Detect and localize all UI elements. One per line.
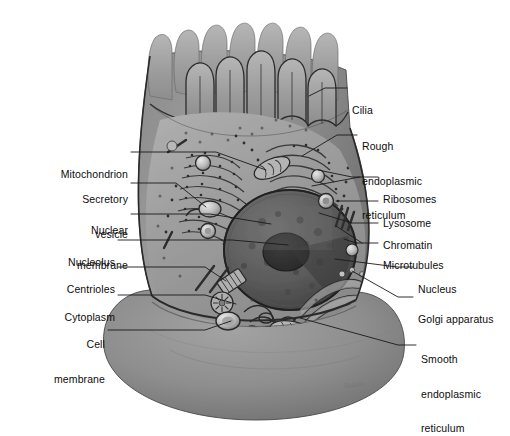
vesicle-left-upper — [196, 156, 211, 171]
vesicle-membrane-left — [167, 141, 177, 151]
cell-diagram-figure: Cilia Rough endoplasmic reticulum Riboso… — [0, 0, 510, 436]
vesicle-right-upper — [312, 170, 325, 183]
lysosome — [319, 194, 334, 209]
label-smooth-endoplasmic-reticulum: Smooth endoplasmic reticulum — [421, 331, 481, 436]
vesicle-right-lower — [346, 244, 358, 256]
vesicle-bottom-left — [216, 312, 240, 330]
label-cell-membrane: Cell membrane — [2, 316, 105, 408]
nucleus — [224, 190, 356, 310]
vesicle-left-lower — [201, 224, 216, 239]
